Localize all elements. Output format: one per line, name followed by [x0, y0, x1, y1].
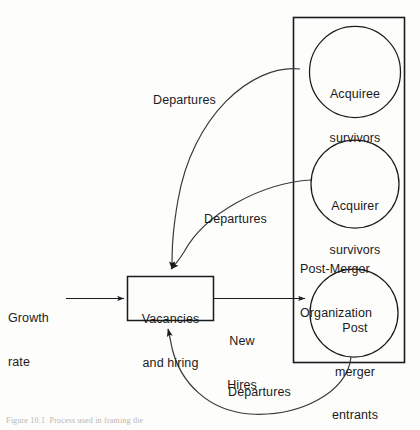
vacancies-line1: Vacancies: [127, 312, 214, 327]
acquiree-line2: survivors: [310, 131, 400, 146]
growth-rate-label: Growth rate: [8, 282, 49, 398]
vacancies-and-hiring-label: Vacancies and hiring: [127, 283, 214, 399]
entrants-line1: Post: [310, 321, 400, 336]
departures-acquirer-label: Departures: [204, 212, 267, 227]
post-merger-entrants-label: Post merger entrants: [310, 292, 400, 430]
vacancies-line2: and hiring: [127, 356, 214, 371]
figure-caption: Figure 10.1 Process used in framing the: [6, 416, 143, 425]
departures-acquiree-label: Departures: [153, 93, 216, 108]
entrants-line2: merger: [310, 365, 400, 380]
growth-rate-line2: rate: [8, 355, 49, 370]
departures-entrants-label: Departures: [228, 385, 291, 400]
acquirer-line1: Acquirer: [310, 199, 400, 214]
acquiree-line1: Acquiree: [310, 87, 400, 102]
new-hires-line1: New: [218, 334, 266, 349]
entrants-line3: entrants: [310, 408, 400, 423]
new-hires-label: New Hires: [218, 305, 266, 421]
post-merger-org-line1: Post-Merger: [300, 262, 372, 277]
acquiree-survivors-label: Acquiree survivors: [310, 58, 400, 174]
growth-rate-line1: Growth: [8, 311, 49, 326]
figure-diagram: Growth rate Vacancies and hiring New Hir…: [0, 0, 420, 430]
